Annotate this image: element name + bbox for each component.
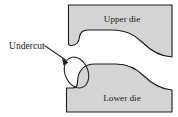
upper-die-shape [69, 5, 173, 57]
undercut-leader-line [45, 46, 67, 61]
lower-die-shape [67, 64, 173, 112]
diagram-canvas: Upper die Lower die Undercut [0, 0, 178, 117]
upper-die-label: Upper die [104, 14, 140, 24]
undercut-label: Undercut [9, 40, 45, 51]
lower-die-label: Lower die [103, 93, 141, 103]
figure-undercut-dies: Upper die Lower die Undercut [0, 0, 178, 117]
